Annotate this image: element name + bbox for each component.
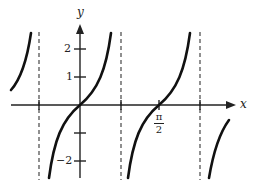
frac-denominator: 2 [156, 124, 162, 135]
y-tick-label-neg2: −2 [56, 155, 72, 166]
branch-left [11, 33, 31, 90]
tangent-graph [0, 0, 262, 193]
frac-numerator: π [156, 111, 163, 122]
y-tick-label-1: 1 [66, 71, 73, 82]
x-axis [11, 100, 232, 110]
x-axis-label: x [240, 98, 247, 110]
y-axis-label: y [77, 6, 84, 18]
x-axis-arrow-icon [226, 101, 236, 109]
y-axis-arrow-icon [76, 24, 84, 34]
y-tick-label-2: 2 [64, 43, 71, 54]
branch-far-right [209, 120, 229, 178]
x-tick-label-pi-over-2: π 2 [154, 112, 164, 135]
